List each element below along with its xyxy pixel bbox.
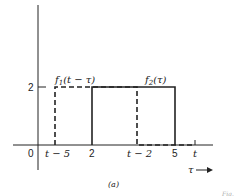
x-tick-label-t-minus-5: t − 5 <box>45 148 70 159</box>
x-tick-label-t-minus-2: t − 2 <box>127 148 152 159</box>
x-axis-label: τ <box>188 164 194 175</box>
y-tick-label: 2 <box>28 82 34 93</box>
x-tick-label-2: 2 <box>89 148 95 159</box>
footer-fragment: Fig. <box>221 190 234 196</box>
x-tick-label-5: 5 <box>172 148 178 159</box>
arrowhead-icon <box>207 167 213 173</box>
f1-pulse <box>55 87 195 145</box>
x-tick-label-t: t <box>193 148 198 159</box>
f2-pulse <box>92 87 175 145</box>
convolution-diagram: 2 0 t − 5 2 t − 2 5 t τ f1(t − τ) f2(τ) … <box>0 0 239 196</box>
caption: (a) <box>108 180 119 189</box>
f1-label: f1(t − τ) <box>54 74 95 87</box>
origin-label: 0 <box>28 148 34 159</box>
f2-label: f2(τ) <box>144 74 167 87</box>
